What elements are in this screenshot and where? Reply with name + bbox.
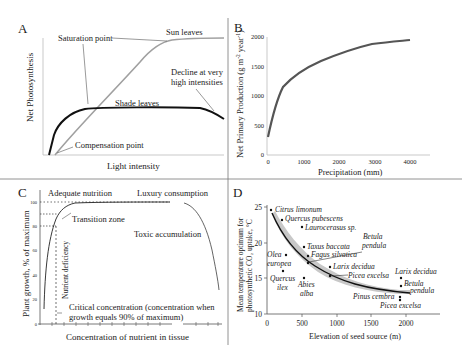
toxic-decline-curve <box>184 203 219 290</box>
ytick: 0 <box>261 151 264 158</box>
sun-leaves-label: Sun leaves <box>166 27 203 37</box>
ytick: 20 <box>33 297 38 302</box>
ytick: 25 <box>255 203 263 212</box>
adequate-nutrition-label: Adequate nutrition <box>48 188 113 198</box>
xtick: 2000 <box>399 319 414 328</box>
ytick: 10 <box>255 310 263 319</box>
ytick: 20 <box>255 239 263 248</box>
panel-b: B 0 500 1000 1500 2000 0 1000 2000 3000 … <box>234 20 430 177</box>
ytick: 40 <box>33 273 38 278</box>
ytick: 1500 <box>251 63 264 70</box>
label-laurocerasus: Laurocerasus sp. <box>304 223 357 232</box>
panel-d-ylabel-1: Mean temperature optimum for <box>236 217 245 312</box>
label-quercus-pubescens: Quercus pubescens <box>285 214 343 223</box>
saturation-arrow-shade <box>83 44 88 104</box>
luxury-consumption-label: Luxury consumption <box>137 188 209 198</box>
xtick: 0 <box>265 319 269 328</box>
xtick: 4000 <box>404 158 417 165</box>
ytick: 15 <box>255 274 263 283</box>
decline-label-line1: Decline at very <box>171 67 224 77</box>
panel-a-xlabel: Light intensity <box>107 161 160 171</box>
panel-a-letter: A <box>18 21 28 36</box>
xtick: 3000 <box>369 158 382 165</box>
xtick: 0 <box>266 158 269 165</box>
xtick: 1000 <box>298 158 311 165</box>
toxic-accumulation-label: Toxic accumulation <box>134 229 202 239</box>
ytick: 100 <box>30 200 38 205</box>
xtick: 500 <box>296 319 308 328</box>
label-betula-pendula-2: pendula <box>361 241 386 250</box>
label-picea-excelsa-1: Picea excelsa <box>347 271 389 280</box>
label-pinus-cembra: Pinus cembra <box>352 292 395 301</box>
label-quercus-ilex-1: Quercus <box>270 274 295 283</box>
panel-d-yticks: 10 15 20 25 <box>255 203 263 319</box>
figure: A Net Photosynthesis Light intensity Sun… <box>0 0 462 360</box>
xtick: 2000 <box>333 158 346 165</box>
label-olea-1: Olea <box>267 250 282 259</box>
panel-d-xlabel: Elevation of seed source (m) <box>309 332 401 341</box>
species-labels: Citrus limonum Quercus pubescens Lauroce… <box>267 205 437 310</box>
ytick: 2000 <box>251 33 264 40</box>
npp-curve <box>268 40 410 137</box>
sun-leaves-curve <box>55 38 224 155</box>
critical-concentration-label-2: growth equals 90% of maximum) <box>69 312 183 322</box>
compensation-point-label: Compensation point <box>75 140 144 150</box>
panel-b-yticks: 0 500 1000 1500 2000 <box>251 33 264 158</box>
critical-concentration-label-1: Critical concentration (concentration wh… <box>69 302 215 312</box>
panel-c: C 0 20 40 60 80 100 Adequate nutr <box>18 185 222 342</box>
label-picea-excelsa-2: Picea excelsa <box>379 301 421 310</box>
panel-c-ylabel: Plant growth, % of maximum <box>21 210 31 317</box>
panel-c-yticks: 0 20 40 60 80 100 <box>30 200 38 327</box>
label-olea-2: europea <box>267 259 292 268</box>
ytick: 1000 <box>251 92 264 99</box>
ytick: 500 <box>254 122 264 129</box>
panel-b-ylabel: Net Primary Production (g m-2 year-1) <box>235 30 245 158</box>
panel-a-ylabel: Net Photosynthesis <box>25 52 35 122</box>
label-betula-pendula-4: pendula <box>409 286 434 295</box>
panel-c-letter: C <box>18 185 27 200</box>
panel-d-xticks: 0 500 1000 1500 2000 <box>265 319 414 328</box>
label-abies-1: Abies <box>297 280 315 289</box>
panel-c-xlabel: Concentration of nutrient in tissue <box>66 332 189 342</box>
ytick: 0 <box>35 322 38 327</box>
panel-d: D 10 15 20 25 0 500 1000 1500 2000 Mean … <box>233 185 440 341</box>
ytick: 80 <box>33 224 38 229</box>
decline-label-line2: high intensities <box>171 77 223 87</box>
saturation-arrow-sun <box>112 38 167 41</box>
panel-b-xlabel: Precipitation (mm) <box>318 167 383 177</box>
label-betula-pendula-1: Betula <box>363 232 383 241</box>
label-larix-decidua-2: Larix decidua <box>394 267 437 276</box>
panel-a: A Net Photosynthesis Light intensity Sun… <box>18 21 224 171</box>
label-quercus-ilex-2: ilex <box>277 283 288 292</box>
panel-b-xticks: 0 1000 2000 3000 4000 <box>266 158 416 165</box>
panel-d-ylabel-2: photosynthetic CO₂ uptake, °C <box>245 219 254 312</box>
xtick: 1000 <box>330 319 345 328</box>
saturation-point-label: Saturation point <box>58 33 113 43</box>
nutrient-deficiency-label: Nutrient deficiency <box>61 241 70 299</box>
label-citrus-limonum: Citrus limonum <box>275 205 322 214</box>
label-larix-decidua-1: Larix decidua <box>332 262 375 271</box>
label-abies-2: alba <box>300 289 314 298</box>
shade-leaves-label: Shade leaves <box>115 98 159 108</box>
transition-arrow <box>62 213 71 219</box>
panel-d-letter: D <box>233 185 242 200</box>
transition-zone-label: Transition zone <box>72 214 125 224</box>
ytick: 60 <box>33 248 38 253</box>
xtick: 1500 <box>364 319 379 328</box>
